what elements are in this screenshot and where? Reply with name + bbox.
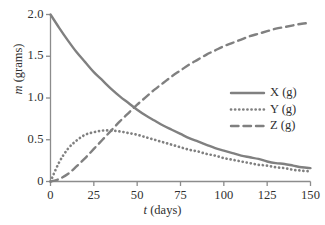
x-axis-title-unit: (days)	[150, 203, 181, 217]
x-axis-title: t (days)	[0, 203, 325, 218]
legend-label-y: Y (g)	[270, 102, 296, 117]
x-tick-label: 0	[31, 188, 71, 203]
y-axis-title-symbol: m	[11, 85, 25, 94]
x-tick-label: 125	[247, 188, 287, 203]
x-tick-label: 100	[204, 188, 244, 203]
x-tick-label: 75	[161, 188, 201, 203]
legend-sample-lines	[231, 93, 264, 126]
y-tick-label: 0.5	[0, 132, 44, 147]
x-axis-title-symbol: t	[144, 203, 147, 217]
legend-label-x: X (g)	[270, 85, 297, 100]
legend-label-z: Z (g)	[270, 118, 295, 133]
y-axis-title: m (grams)	[8, 19, 26, 119]
decay-curve-figure: 00.51.01.52.0 0255075100125150 X (g)Y (g…	[0, 0, 325, 225]
y-tick-label: 0	[0, 174, 44, 189]
y-axis-title-text: m (grams)	[11, 43, 25, 94]
x-tick-label: 50	[117, 188, 157, 203]
x-tick-label: 25	[74, 188, 114, 203]
series-line-y	[51, 130, 311, 181]
x-tick-label: 150	[291, 188, 325, 203]
y-axis-title-unit: (grams)	[11, 43, 25, 82]
axis-ticks	[46, 15, 311, 187]
